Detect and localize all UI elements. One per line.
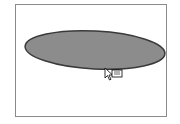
shape-layer — [0, 0, 180, 124]
move-cursor-icon — [104, 67, 124, 81]
ellipse-shape[interactable] — [24, 27, 166, 72]
